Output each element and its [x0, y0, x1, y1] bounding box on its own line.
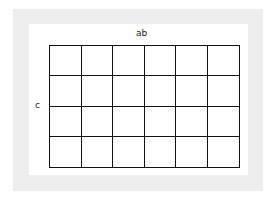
grid-cell [176, 76, 208, 106]
grid-cell [208, 107, 240, 137]
grid-cell [208, 46, 240, 76]
row-variable-label: c [35, 101, 40, 110]
grid-cell [208, 137, 240, 167]
grid-cell [176, 137, 208, 167]
grid-cell [145, 46, 177, 76]
grid-cell [82, 107, 114, 137]
grid-cell [145, 137, 177, 167]
grid-cell [176, 107, 208, 137]
grid-cell [208, 76, 240, 106]
grid-cell [176, 46, 208, 76]
column-variable-label: ab [136, 29, 147, 38]
grid-cell [82, 76, 114, 106]
grid-cell [145, 107, 177, 137]
grid-cell [145, 76, 177, 106]
grid-cell [113, 137, 145, 167]
grid-cell [50, 46, 82, 76]
grid-cell [82, 137, 114, 167]
grid-cell [113, 107, 145, 137]
grid-cell [50, 76, 82, 106]
grid-cell [113, 46, 145, 76]
grid-cell [50, 107, 82, 137]
map-grid [49, 45, 240, 168]
grid-cell [50, 137, 82, 167]
grid-cell [113, 76, 145, 106]
grid-cell [82, 46, 114, 76]
